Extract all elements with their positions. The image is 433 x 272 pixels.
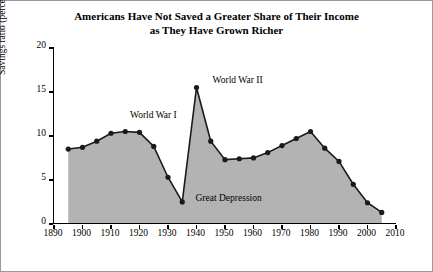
data-point xyxy=(322,146,327,151)
x-tick-mark xyxy=(338,225,340,229)
y-tick-mark xyxy=(49,179,53,181)
x-tick-label: 1970 xyxy=(266,228,296,238)
x-tick-label: 1920 xyxy=(124,228,154,238)
data-point xyxy=(180,199,185,204)
x-tick-mark xyxy=(224,225,226,229)
data-point xyxy=(80,145,85,150)
data-point xyxy=(251,155,256,160)
data-point xyxy=(208,139,213,144)
x-tick-mark xyxy=(253,225,255,229)
y-tick-mark xyxy=(49,91,53,93)
data-point xyxy=(222,157,227,162)
x-tick-label: 1910 xyxy=(95,228,125,238)
y-tick-mark xyxy=(49,47,53,49)
x-tick-label: 2010 xyxy=(380,228,410,238)
x-tick-mark xyxy=(82,225,84,229)
y-tick-label: 5 xyxy=(26,172,46,182)
data-point xyxy=(151,144,156,149)
annotation-label: World War I xyxy=(130,110,177,120)
x-tick-mark xyxy=(367,225,369,229)
data-point xyxy=(94,139,99,144)
x-tick-label: 1940 xyxy=(181,228,211,238)
x-tick-mark xyxy=(139,225,141,229)
x-tick-label: 1980 xyxy=(295,228,325,238)
chart-title-line1: Americans Have Not Saved a Greater Share… xyxy=(74,10,359,22)
data-point xyxy=(123,129,128,134)
x-tick-mark xyxy=(196,225,198,229)
x-tick-label: 1890 xyxy=(38,228,68,238)
y-axis-label: Savings ratio (percent) xyxy=(0,0,7,75)
x-tick-mark xyxy=(110,225,112,229)
y-tick-label: 10 xyxy=(26,128,46,138)
x-tick-mark xyxy=(395,225,397,229)
data-point xyxy=(336,159,341,164)
data-point xyxy=(379,210,384,215)
x-tick-label: 1950 xyxy=(209,228,239,238)
data-point xyxy=(66,146,71,151)
data-point xyxy=(194,85,199,90)
chart-figure: Americans Have Not Saved a Greater Share… xyxy=(0,0,433,272)
y-tick-label: 15 xyxy=(26,84,46,94)
data-point xyxy=(294,136,299,141)
x-tick-label: 1960 xyxy=(238,228,268,238)
x-tick-mark xyxy=(310,225,312,229)
data-point xyxy=(108,131,113,136)
data-point xyxy=(137,130,142,135)
data-point xyxy=(351,182,356,187)
annotation-label: World War II xyxy=(213,75,263,85)
x-tick-mark xyxy=(167,225,169,229)
x-tick-mark xyxy=(281,225,283,229)
data-point xyxy=(265,150,270,155)
x-tick-label: 2000 xyxy=(352,228,382,238)
y-tick-mark xyxy=(49,135,53,137)
chart-title: Americans Have Not Saved a Greater Share… xyxy=(1,9,432,37)
annotation-label: Great Depression xyxy=(196,193,262,203)
x-tick-label: 1930 xyxy=(152,228,182,238)
data-point xyxy=(279,143,284,148)
data-point xyxy=(365,200,370,205)
x-tick-mark xyxy=(53,225,55,229)
data-point xyxy=(308,129,313,134)
y-tick-label: 20 xyxy=(26,40,46,50)
data-point xyxy=(237,156,242,161)
data-point xyxy=(165,175,170,180)
x-tick-label: 1990 xyxy=(323,228,353,238)
x-tick-label: 1900 xyxy=(67,228,97,238)
chart-title-line2: as They Have Grown Richer xyxy=(1,23,432,37)
y-tick-label: 0 xyxy=(26,216,46,226)
